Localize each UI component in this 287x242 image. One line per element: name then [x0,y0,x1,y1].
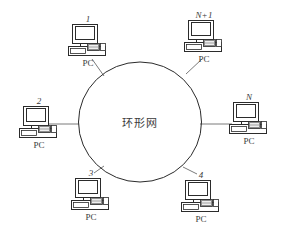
node-2-label: PC [8,140,70,150]
node-2-number: 2 [8,96,70,106]
node-np1-number: N+1 [173,10,235,20]
node-n-number: N [218,92,280,102]
node-1-label: PC [57,58,119,68]
center-network-label: 环形网 [102,114,178,130]
diagram-canvas: 环形网 1PCN+1PC2PCNPC3PC4PC [0,0,287,242]
node-np1-label: PC [173,54,235,64]
node-3-label: PC [60,212,122,222]
node-n-label: PC [218,136,280,146]
node-3-number: 3 [60,168,122,178]
pc-icon-node-n [230,103,267,134]
pc-icon-node-3 [72,179,109,210]
pc-icon-node-np1 [185,21,222,52]
pc-icon-node-1 [69,25,106,56]
pc-icon-node-4 [182,181,219,212]
node-1-number: 1 [57,14,119,24]
node-4-number: 4 [170,170,232,180]
node-4-label: PC [170,214,232,224]
pc-icon-node-2 [20,107,57,138]
